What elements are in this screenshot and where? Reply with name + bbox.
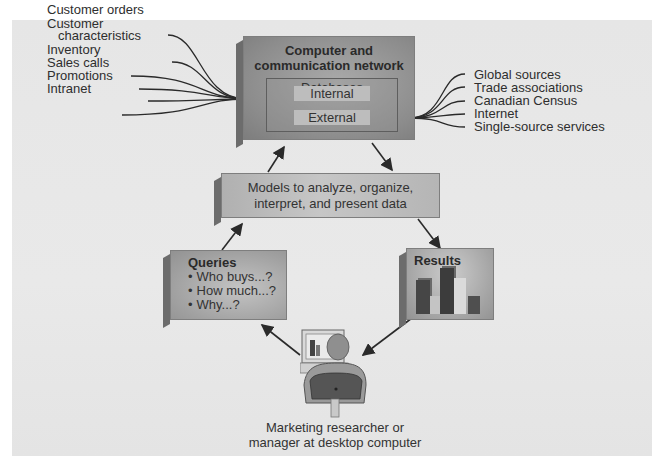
models-line-2: interpret, and present data: [221, 196, 440, 212]
box-side-shade: [163, 254, 170, 328]
source-characteristics: characteristics: [58, 29, 141, 42]
models-line-1: Models to analyze, organize,: [221, 180, 440, 196]
query-item: Why...?: [188, 298, 276, 312]
result-bar: [416, 280, 430, 314]
queries-list: Who buys...? How much...? Why...?: [188, 270, 276, 312]
query-item: Who buys...?: [188, 270, 276, 284]
source-single-source-services: Single-source services: [474, 120, 605, 133]
result-bar: [454, 278, 466, 314]
results-box: Results: [406, 248, 494, 320]
source-intranet: Intranet: [47, 82, 91, 95]
computer-network-title: Computer and communication network: [243, 43, 415, 73]
user-at-computer-icon: [300, 325, 370, 420]
results-title: Results: [414, 253, 461, 268]
result-bar: [440, 268, 454, 314]
box-side-shade: [236, 40, 243, 148]
box-side-shade: [214, 177, 221, 226]
title-line-1: Computer and: [243, 43, 415, 58]
models-box: Models to analyze, organize, interpret, …: [221, 173, 440, 218]
user-caption: Marketing researcher or manager at deskt…: [240, 420, 430, 450]
queries-title: Queries: [188, 255, 236, 270]
result-bar: [468, 296, 480, 314]
query-item: How much...?: [188, 284, 276, 298]
box-side-shade: [399, 252, 406, 328]
caption-line-1: Marketing researcher or: [240, 420, 430, 435]
database-external: External: [294, 110, 370, 125]
caption-line-2: manager at desktop computer: [240, 435, 430, 450]
queries-box: Queries Who buys...? How much...? Why...…: [170, 250, 287, 320]
models-text: Models to analyze, organize, interpret, …: [221, 180, 440, 212]
source-customer-orders: Customer orders: [47, 3, 144, 16]
title-line-2: communication network: [243, 58, 415, 73]
computer-network-box: Computer and communication network Datab…: [243, 36, 415, 140]
database-internal: Internal: [294, 86, 370, 101]
databases-box: Databases Internal External: [266, 78, 398, 132]
